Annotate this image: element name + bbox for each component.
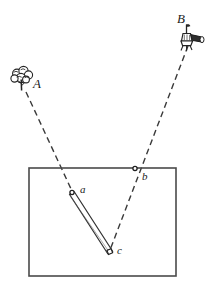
point-a-marker xyxy=(70,190,74,194)
tree-icon xyxy=(11,66,33,90)
point-a-label: a xyxy=(80,183,86,195)
theodolite-icon xyxy=(181,25,204,51)
station-b-label: B xyxy=(177,11,185,26)
sight-line-a xyxy=(26,92,72,191)
point-b-label: b xyxy=(142,170,148,182)
measuring-bar xyxy=(70,192,113,254)
point-c-label: c xyxy=(117,244,122,256)
station-a-label: A xyxy=(32,76,41,91)
survey-plot-rectangle xyxy=(29,168,176,276)
point-c-marker xyxy=(107,249,113,255)
point-b-marker xyxy=(133,166,137,170)
diagram-canvas: A B a b c xyxy=(0,0,214,282)
survey-diagram: A B a b c xyxy=(0,0,214,282)
